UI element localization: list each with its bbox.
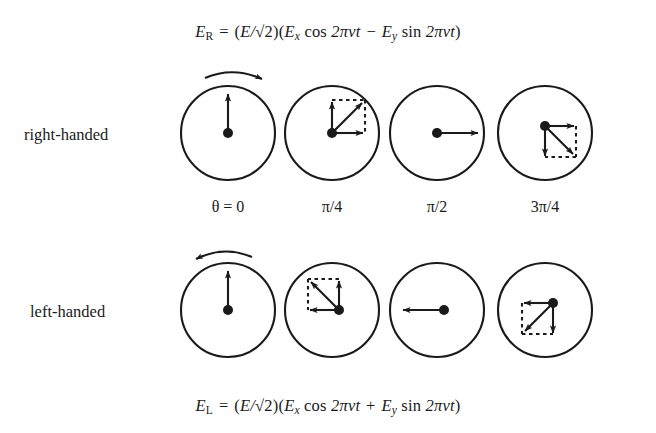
eq-top-y-symbol: E bbox=[382, 22, 392, 41]
vector-diagram-canvas bbox=[0, 0, 656, 433]
eq-bottom-cos: cos bbox=[304, 396, 327, 415]
origin-dot bbox=[327, 128, 337, 138]
rotation-arrow-counterclockwise bbox=[196, 251, 252, 259]
origin-dot bbox=[439, 305, 449, 315]
panel-left-handed-2 bbox=[390, 263, 484, 357]
eq-top-cos: cos bbox=[304, 22, 327, 41]
circle-outline bbox=[498, 86, 592, 180]
eq-top-phase-1: 2πνt bbox=[331, 22, 360, 41]
panel-right-handed-0 bbox=[181, 72, 275, 180]
eq-bottom-radical-arg: 2 bbox=[264, 396, 272, 415]
eq-top-equals: = bbox=[218, 22, 231, 41]
eq-bottom-y-subscript: y bbox=[392, 404, 397, 416]
panel-left-handed-0 bbox=[181, 251, 275, 357]
eq-top-x-symbol: E bbox=[284, 22, 294, 41]
circle-outline bbox=[498, 263, 592, 357]
eq-bottom-lhs-subscript: L bbox=[206, 404, 213, 416]
panel-right-handed-2 bbox=[390, 86, 484, 180]
phase-label-3: 3π/4 bbox=[531, 198, 560, 216]
origin-dot bbox=[548, 298, 558, 308]
circle-outline bbox=[285, 263, 379, 357]
eq-bottom-amplitude-e: E bbox=[240, 396, 250, 415]
circle-outline bbox=[181, 263, 275, 357]
eq-bottom-phase-1: 2πνt bbox=[331, 396, 360, 415]
panel-right-handed-1 bbox=[285, 86, 379, 180]
circle-outline bbox=[181, 86, 275, 180]
origin-dot bbox=[334, 305, 344, 315]
origin-dot bbox=[432, 128, 442, 138]
resultant-vector bbox=[525, 303, 553, 331]
origin-dot bbox=[223, 128, 233, 138]
phase-label-2: π/2 bbox=[427, 198, 448, 216]
eq-top-radical-arg: 2 bbox=[265, 22, 273, 41]
eq-bottom-operator: + bbox=[365, 396, 378, 415]
phase-label-1: π/4 bbox=[322, 198, 343, 216]
row-label-right-handed: right-handed bbox=[24, 125, 108, 145]
eq-top-operator: − bbox=[365, 22, 378, 41]
panel-left-handed-1 bbox=[285, 263, 379, 357]
origin-dot bbox=[540, 121, 550, 131]
eq-top-y-subscript: y bbox=[392, 30, 397, 42]
eq-bottom-sin: sin bbox=[401, 396, 421, 415]
eq-top-radical: √ bbox=[255, 22, 264, 41]
resultant-vector bbox=[311, 282, 339, 310]
eq-bottom-radical: √ bbox=[255, 396, 264, 415]
eq-top-phase-2: 2πνt bbox=[426, 22, 455, 41]
circle-outline bbox=[390, 86, 484, 180]
eq-bottom-x-subscript: x bbox=[294, 404, 299, 416]
polarization-figure: ER = (E/√2)(Ex cos 2πνt − Ey sin 2πνt) r… bbox=[0, 0, 656, 433]
row-label-left-handed: left-handed bbox=[30, 302, 105, 322]
dotted-construction-box bbox=[522, 303, 553, 334]
dotted-construction-box bbox=[545, 126, 576, 157]
panel-left-handed-3 bbox=[498, 263, 592, 357]
dotted-construction-box bbox=[308, 279, 339, 310]
eq-bottom-x-symbol: E bbox=[284, 396, 294, 415]
resultant-vector bbox=[332, 103, 362, 133]
equation-left-handed: EL = (E/√2)(Ex cos 2πνt + Ey sin 2πνt) bbox=[0, 396, 656, 416]
eq-top-lhs-subscript: R bbox=[206, 30, 214, 42]
panel-right-handed-3 bbox=[498, 86, 592, 180]
equation-right-handed: ER = (E/√2)(Ex cos 2πνt − Ey sin 2πνt) bbox=[0, 22, 656, 42]
eq-top-sin: sin bbox=[402, 22, 422, 41]
circle-outline bbox=[285, 86, 379, 180]
eq-bottom-equals: = bbox=[217, 396, 230, 415]
dotted-construction-box bbox=[332, 100, 365, 133]
eq-bottom-term-close: ) bbox=[455, 396, 461, 415]
eq-bottom-y-symbol: E bbox=[381, 396, 391, 415]
eq-top-x-subscript: x bbox=[295, 30, 300, 42]
eq-bottom-phase-2: 2πνt bbox=[426, 396, 455, 415]
row-left-handed bbox=[181, 251, 592, 357]
phase-label-0: θ = 0 bbox=[212, 198, 245, 216]
row-right-handed bbox=[181, 72, 592, 180]
eq-top-term-close: ) bbox=[455, 22, 461, 41]
eq-top-amplitude-e: E bbox=[240, 22, 250, 41]
rotation-arrow-clockwise bbox=[205, 72, 262, 79]
eq-top-lhs-symbol: E bbox=[195, 22, 205, 41]
circle-outline bbox=[390, 263, 484, 357]
resultant-vector bbox=[545, 126, 573, 154]
origin-dot bbox=[223, 305, 233, 315]
eq-bottom-lhs-symbol: E bbox=[196, 396, 206, 415]
